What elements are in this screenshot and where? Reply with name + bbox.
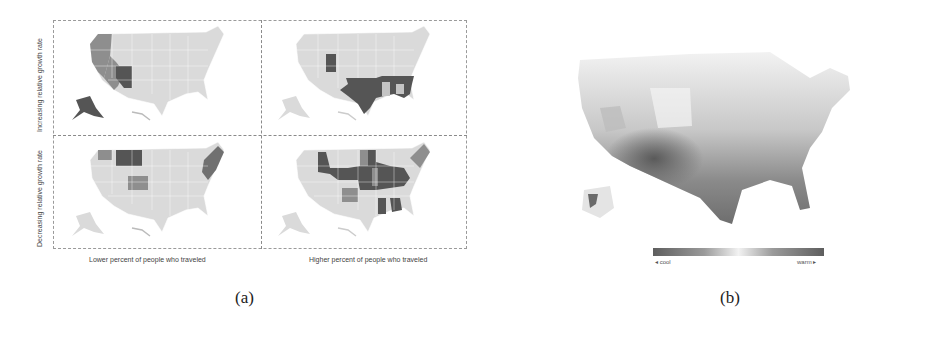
- us-map-top-left: [58, 22, 258, 134]
- colorbar-cool-label: ◂ cool: [655, 258, 671, 265]
- panel-a-caption: (a): [235, 288, 254, 308]
- us-map-top-right: [264, 22, 464, 134]
- figure-panel-b: ◂ cool warm ▸ (b): [480, 0, 945, 339]
- figure-panel-a: Increasing relative growth rate Decreasi…: [0, 0, 480, 339]
- x-axis-label-left: Lower percent of people who traveled: [89, 256, 206, 263]
- horizontal-divider: [53, 135, 467, 136]
- us-map-bottom-right: [264, 138, 464, 250]
- us-map-bottom-left: [58, 138, 258, 250]
- colorbar: [653, 248, 824, 256]
- panel-b-caption: (b): [720, 288, 740, 308]
- y-axis-label-top: Increasing relative growth rate: [36, 38, 43, 132]
- y-axis-label-bottom: Decreasing relative growth rate: [36, 150, 43, 247]
- us-heat-map: [570, 48, 920, 238]
- colorbar-warm-label: warm ▸: [797, 258, 816, 265]
- x-axis-label-right: Higher percent of people who traveled: [309, 256, 427, 263]
